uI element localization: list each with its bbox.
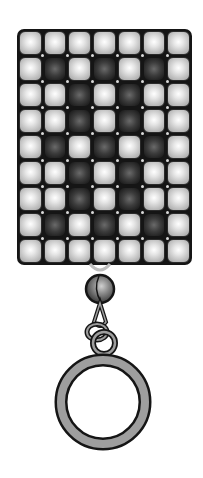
junction-dot [166, 185, 169, 188]
keyring-hardware [0, 255, 203, 478]
junction-dot [41, 106, 44, 109]
dark-bead [44, 135, 67, 159]
dark-bead [118, 187, 141, 211]
junction-dot [116, 80, 119, 83]
light-bead [143, 109, 166, 133]
dark-bead [68, 83, 91, 107]
light-bead [19, 31, 42, 55]
junction-dot [166, 211, 169, 214]
key-ring-icon [61, 360, 145, 444]
light-bead [167, 109, 190, 133]
junction-dot [41, 211, 44, 214]
light-bead [19, 83, 42, 107]
light-bead [68, 57, 91, 81]
junction-dot [166, 159, 169, 162]
light-bead [93, 187, 116, 211]
junction-dot [66, 106, 69, 109]
junction-dot [66, 159, 69, 162]
junction-dot [66, 54, 69, 57]
junction-dot [166, 80, 169, 83]
light-bead [143, 187, 166, 211]
light-bead [19, 57, 42, 81]
light-bead [19, 135, 42, 159]
light-bead [19, 213, 42, 237]
dark-bead [118, 109, 141, 133]
junction-dot [116, 159, 119, 162]
dark-bead [93, 213, 116, 237]
light-bead [19, 187, 42, 211]
junction-dot [41, 237, 44, 240]
light-bead [68, 31, 91, 55]
light-bead [167, 135, 190, 159]
light-bead [93, 83, 116, 107]
light-bead [167, 31, 190, 55]
light-bead [167, 161, 190, 185]
light-bead [44, 109, 67, 133]
light-bead [143, 31, 166, 55]
junction-dot [91, 159, 94, 162]
light-bead [68, 213, 91, 237]
light-bead [68, 135, 91, 159]
light-bead [118, 31, 141, 55]
dark-bead [68, 161, 91, 185]
junction-dot [141, 237, 144, 240]
junction-dot [166, 54, 169, 57]
light-bead [19, 161, 42, 185]
light-bead [118, 135, 141, 159]
light-bead [93, 31, 116, 55]
junction-dot [66, 211, 69, 214]
junction-dot [141, 185, 144, 188]
junction-dot [166, 106, 169, 109]
junction-dot [141, 80, 144, 83]
junction-dot [91, 106, 94, 109]
light-bead [93, 161, 116, 185]
light-bead [19, 109, 42, 133]
junction-dot [166, 237, 169, 240]
junction-dot [41, 185, 44, 188]
dark-bead [118, 83, 141, 107]
light-bead [93, 109, 116, 133]
dark-bead [93, 57, 116, 81]
dark-bead [93, 135, 116, 159]
light-bead [167, 187, 190, 211]
junction-dot [41, 54, 44, 57]
light-bead [167, 57, 190, 81]
light-bead [118, 213, 141, 237]
dark-bead [118, 161, 141, 185]
junction-dot [116, 185, 119, 188]
junction-dot [41, 80, 44, 83]
light-bead [143, 83, 166, 107]
light-bead [44, 31, 67, 55]
junction-dot [91, 80, 94, 83]
junction-dot [41, 159, 44, 162]
light-bead [167, 83, 190, 107]
junction-dot [141, 106, 144, 109]
junction-dot [91, 54, 94, 57]
junction-dot [141, 54, 144, 57]
junction-dot [116, 106, 119, 109]
jump-ring-icon [87, 303, 115, 354]
light-bead [167, 213, 190, 237]
dark-bead [143, 135, 166, 159]
dark-bead [68, 187, 91, 211]
dark-bead [68, 109, 91, 133]
light-bead [44, 187, 67, 211]
light-bead [143, 161, 166, 185]
light-bead [118, 57, 141, 81]
junction-dot [141, 211, 144, 214]
dark-bead [143, 57, 166, 81]
junction-dot [66, 237, 69, 240]
junction-dot [66, 80, 69, 83]
bead-grid [17, 29, 192, 265]
junction-dot [141, 159, 144, 162]
dark-bead [44, 57, 67, 81]
junction-dot [116, 237, 119, 240]
junction-dot [91, 211, 94, 214]
light-bead [44, 83, 67, 107]
junction-dot [91, 237, 94, 240]
dark-bead [44, 213, 67, 237]
connector-loop-icon [90, 264, 110, 270]
light-bead [44, 161, 67, 185]
junction-dot [91, 185, 94, 188]
junction-dot [116, 211, 119, 214]
